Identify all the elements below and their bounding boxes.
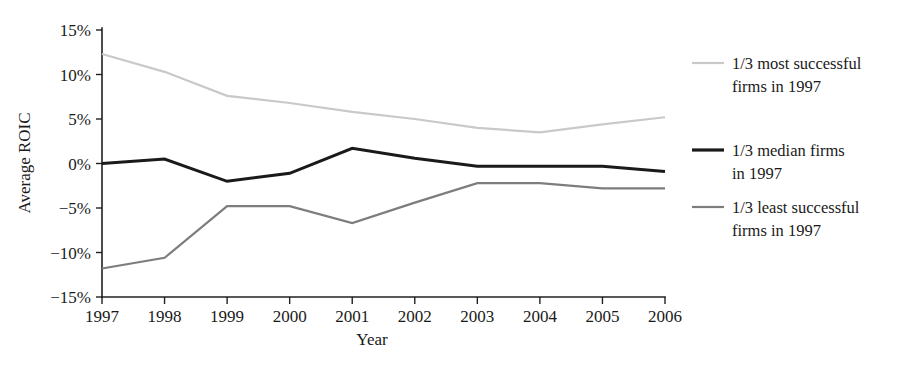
y-axis-tick-labels: 15% 10% 5% 0% −5% −10% −15% [50,21,91,307]
legend-label-0-line2: firms in 1997 [732,77,821,96]
y-axis-title: Average ROIC [15,112,34,213]
legend-label-1-line2: in 1997 [732,164,782,183]
y-tick-label: −5% [59,199,91,218]
y-tick-label: 10% [60,66,91,85]
x-tick-label: 2001 [335,307,369,326]
x-axis-ticks [102,297,665,304]
y-tick-label: 5% [68,110,91,129]
x-axis-tick-labels: 1997199819992000200120022003200420052006 [85,307,682,326]
x-tick-label: 2000 [273,307,307,326]
legend-label-0-line1: 1/3 most successful [732,54,862,73]
x-tick-label: 1998 [148,307,182,326]
series-line-2 [102,183,665,268]
y-tick-label: 15% [60,21,91,40]
line-chart: 15% 10% 5% 0% −5% −10% −15% 199719981999… [0,0,913,373]
x-tick-label: 1999 [210,307,244,326]
x-tick-label: 2006 [648,307,682,326]
y-axis-ticks [96,30,102,297]
legend-label-1-line1: 1/3 median firms [732,141,845,160]
series-line-1 [102,148,665,181]
series-group [102,54,665,268]
x-tick-label: 1997 [85,307,120,326]
x-tick-label: 2005 [585,307,619,326]
x-axis-title: Year [356,330,388,349]
legend-label-2-line2: firms in 1997 [732,221,821,240]
series-line-0 [102,54,665,132]
legend-label-2-line1: 1/3 least successful [732,198,860,217]
x-tick-label: 2003 [460,307,494,326]
chart-legend: 1/3 most successfulfirms in 19971/3 medi… [692,54,862,240]
x-tick-label: 2004 [523,307,558,326]
y-tick-label: 0% [68,155,91,174]
y-tick-label: −10% [50,244,91,263]
y-tick-label: −15% [50,288,91,307]
x-tick-label: 2002 [398,307,432,326]
chart-figure: 15% 10% 5% 0% −5% −10% −15% 199719981999… [0,0,913,373]
